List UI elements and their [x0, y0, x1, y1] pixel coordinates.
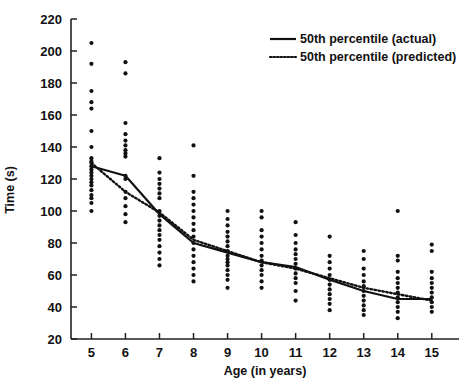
scatter-point — [225, 263, 229, 267]
scatter-point — [328, 287, 332, 291]
scatter-point — [328, 283, 332, 287]
scatter-point — [225, 239, 229, 243]
scatter-point — [157, 257, 161, 261]
x-tick-label-7: 7 — [156, 345, 163, 360]
scatter-point — [430, 243, 434, 247]
scatter-point — [430, 310, 434, 314]
scatter-point — [430, 291, 434, 295]
scatter-point — [225, 244, 229, 248]
scatter-point — [225, 286, 229, 290]
scatter-point — [259, 215, 263, 219]
y-tick-label-100: 100 — [40, 204, 62, 219]
scatter-point — [157, 223, 161, 227]
scatter-point — [191, 143, 195, 147]
scatter-point — [123, 143, 127, 147]
scatter-point — [157, 196, 161, 200]
x-tick-label-12: 12 — [322, 345, 336, 360]
y-tick-label-40: 40 — [48, 300, 62, 315]
x-tick-label-11: 11 — [289, 345, 303, 360]
scatter-point — [259, 228, 263, 232]
scatter-point — [225, 278, 229, 282]
scatter-point — [225, 273, 229, 277]
scatter-point — [362, 294, 366, 298]
x-tick-label-13: 13 — [356, 345, 370, 360]
scatter-point — [396, 276, 400, 280]
scatter-point — [89, 145, 93, 149]
y-tick-label-160: 160 — [40, 108, 62, 123]
scatter-point — [362, 279, 366, 283]
scatter-point — [89, 209, 93, 213]
scatter-point — [157, 251, 161, 255]
scatter-point — [259, 279, 263, 283]
chart-legend: 50th percentile (actual) 50th percentile… — [270, 32, 456, 64]
scatter-plot-svg: 20406080100120140160180200220 5678910111… — [0, 0, 465, 384]
scatter-point — [259, 209, 263, 213]
scatter-point — [396, 316, 400, 320]
scatter-point — [225, 209, 229, 213]
scatter-point — [396, 259, 400, 263]
scatter-point — [191, 196, 195, 200]
scatter-point — [123, 155, 127, 159]
scatter-point — [225, 268, 229, 272]
scatter-point — [259, 273, 263, 277]
scatter-point — [430, 305, 434, 309]
scatter-point — [430, 286, 434, 290]
y-axis-title: Time (s) — [3, 166, 17, 214]
scatter-point — [259, 263, 263, 267]
scatter-point — [123, 121, 127, 125]
x-tick-label-5: 5 — [88, 345, 95, 360]
x-tick-label-10: 10 — [254, 345, 268, 360]
scatter-point — [396, 281, 400, 285]
scatter-point — [191, 260, 195, 264]
scatter-point — [191, 190, 195, 194]
scatter-point — [89, 201, 93, 205]
scatter-point — [89, 100, 93, 104]
x-axis-title: Age (in years) — [224, 364, 307, 378]
scatter-point — [294, 262, 298, 266]
y-tick-label-200: 200 — [40, 44, 62, 59]
scatter-point — [396, 305, 400, 309]
y-tick-label-220: 220 — [40, 12, 62, 27]
scatter-point — [362, 313, 366, 317]
scatter-point — [328, 297, 332, 301]
scatter-point — [396, 300, 400, 304]
scatter-point — [123, 71, 127, 75]
x-tick-label-9: 9 — [224, 345, 231, 360]
scatter-point — [89, 89, 93, 93]
scatter-point — [294, 276, 298, 280]
scatter-point — [328, 292, 332, 296]
scatter-point — [294, 271, 298, 275]
scatter-point — [123, 212, 127, 216]
scatter-point — [157, 191, 161, 195]
scatter-point — [328, 260, 332, 264]
scatter-point — [191, 254, 195, 258]
x-tick-label-6: 6 — [122, 345, 129, 360]
scatter-point — [396, 310, 400, 314]
scatter-point — [259, 268, 263, 272]
scatter-point — [259, 254, 263, 258]
scatter-point — [123, 204, 127, 208]
scatter-point — [157, 228, 161, 232]
scatter-point — [396, 209, 400, 213]
scatter-point — [259, 286, 263, 290]
scatter-point — [294, 220, 298, 224]
scatter-point — [191, 222, 195, 226]
scatter-point — [191, 203, 195, 207]
scatter-point — [328, 235, 332, 239]
y-tick-label-20: 20 — [48, 332, 62, 347]
scatter-point — [191, 279, 195, 283]
scatter-point — [294, 241, 298, 245]
scatter-point — [157, 219, 161, 223]
scatter-point — [157, 187, 161, 191]
scatter-point — [396, 254, 400, 258]
scatter-point — [430, 281, 434, 285]
scatter-point — [362, 267, 366, 271]
scatter-point — [89, 183, 93, 187]
scatter-point — [89, 107, 93, 111]
scatter-point — [225, 223, 229, 227]
scatter-point — [259, 247, 263, 251]
scatter-point — [294, 299, 298, 303]
scatter-point — [191, 228, 195, 232]
scatter-point — [362, 299, 366, 303]
scatter-point — [328, 302, 332, 306]
